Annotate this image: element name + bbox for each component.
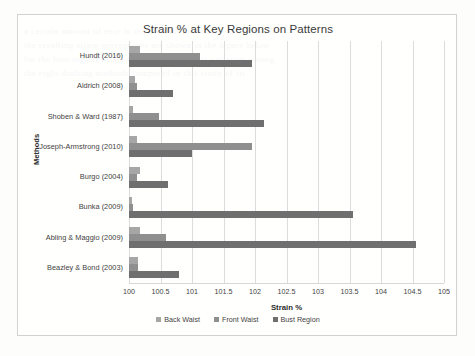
x-tick-label: 105 (438, 287, 450, 296)
legend-swatch-icon (273, 317, 278, 322)
x-axis-title: Strain % (129, 303, 444, 312)
x-tick-label: 102 (249, 287, 261, 296)
bar-front-waist[interactable] (129, 264, 138, 271)
category-label: Aldrich (2008) (77, 81, 123, 90)
bar-bust-region[interactable] (129, 211, 353, 218)
bar-group: Hundt (2016) (129, 41, 444, 71)
chart-figure: Strain % at Key Regions on Patterns Meth… (17, 14, 457, 336)
bar-front-waist[interactable] (129, 234, 166, 241)
x-tick-label: 103 (312, 287, 324, 296)
legend-swatch-icon (214, 317, 219, 322)
legend-item[interactable]: Front Waist (214, 315, 258, 324)
bar-front-waist[interactable] (129, 204, 133, 211)
bar-front-waist[interactable] (129, 53, 200, 60)
category-label: Shoben & Ward (1987) (48, 112, 123, 121)
chart-legend: Back WaistFront WaistBust Region (18, 315, 458, 324)
bar-group: Abling & Maggio (2009) (129, 223, 444, 253)
chart-title: Strain % at Key Regions on Patterns (18, 23, 458, 35)
bar-bust-region[interactable] (129, 150, 192, 157)
bar-bust-region[interactable] (129, 60, 252, 67)
bar-group: Aldrich (2008) (129, 71, 444, 101)
x-tick-label: 101 (186, 287, 198, 296)
bar-group: Joseph-Armstrong (2010) (129, 132, 444, 162)
x-tick-label: 103.5 (341, 287, 359, 296)
legend-label: Front Waist (222, 315, 258, 324)
bar-bust-region[interactable] (129, 120, 264, 127)
x-tick-label: 100 (123, 287, 135, 296)
x-tick-label: 104.5 (404, 287, 422, 296)
x-axis-line (129, 283, 444, 284)
bar-group: Bunka (2009) (129, 192, 444, 222)
bar-bust-region[interactable] (129, 181, 168, 188)
plot-area: Hundt (2016)Aldrich (2008)Shoben & Ward … (129, 41, 444, 283)
bar-back-waist[interactable] (129, 257, 138, 264)
category-label: Abling & Maggio (2009) (46, 233, 123, 242)
bar-front-waist[interactable] (129, 143, 252, 150)
legend-label: Bust Region (281, 315, 320, 324)
category-label: Bunka (2009) (79, 202, 123, 211)
bar-back-waist[interactable] (129, 46, 140, 53)
category-label: Hundt (2016) (80, 51, 123, 60)
x-tick-label: 100.5 (152, 287, 170, 296)
category-label: Joseph-Armstrong (2010) (39, 142, 123, 151)
bar-group: Beazley & Bond (2003) (129, 253, 444, 283)
legend-swatch-icon (156, 317, 161, 322)
bar-back-waist[interactable] (129, 197, 132, 204)
x-tick-label: 104 (375, 287, 387, 296)
bar-back-waist[interactable] (129, 167, 140, 174)
bar-group: Burgo (2004) (129, 162, 444, 192)
category-label: Burgo (2004) (80, 172, 123, 181)
bar-bust-region[interactable] (129, 271, 179, 278)
gridline (444, 41, 445, 283)
legend-item[interactable]: Bust Region (273, 315, 320, 324)
bar-bust-region[interactable] (129, 241, 416, 248)
bar-back-waist[interactable] (129, 76, 135, 83)
legend-label: Back Waist (164, 315, 200, 324)
bar-front-waist[interactable] (129, 113, 159, 120)
x-tick-label: 101.5 (215, 287, 233, 296)
bar-bust-region[interactable] (129, 90, 173, 97)
legend-item[interactable]: Back Waist (156, 315, 200, 324)
bar-group: Shoben & Ward (1987) (129, 102, 444, 132)
bar-back-waist[interactable] (129, 136, 137, 143)
bar-back-waist[interactable] (129, 106, 133, 113)
category-label: Beazley & Bond (2003) (47, 263, 123, 272)
x-tick-label: 102.5 (278, 287, 296, 296)
bar-back-waist[interactable] (129, 227, 140, 234)
bar-front-waist[interactable] (129, 174, 137, 181)
bar-front-waist[interactable] (129, 83, 137, 90)
